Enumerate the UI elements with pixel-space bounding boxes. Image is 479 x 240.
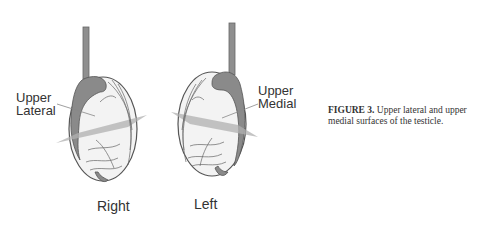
left-side-label: Left (194, 198, 217, 211)
right-side-label: Right (97, 200, 130, 213)
upper-medial-label: Upper Medial (258, 84, 296, 110)
right-spermatic-cord (83, 27, 89, 79)
upper-medial-label-line2: Medial (258, 97, 296, 110)
upper-lateral-label-line2: Lateral (16, 104, 56, 117)
right-testicle (56, 27, 147, 182)
figure-caption: FIGURE 3. Upper lateral and upper medial… (328, 105, 478, 127)
upper-lateral-label: Upper Lateral (16, 91, 56, 117)
left-spermatic-cord (229, 23, 235, 75)
figure-number: FIGURE 3. (328, 105, 374, 115)
left-testicle (171, 23, 258, 176)
